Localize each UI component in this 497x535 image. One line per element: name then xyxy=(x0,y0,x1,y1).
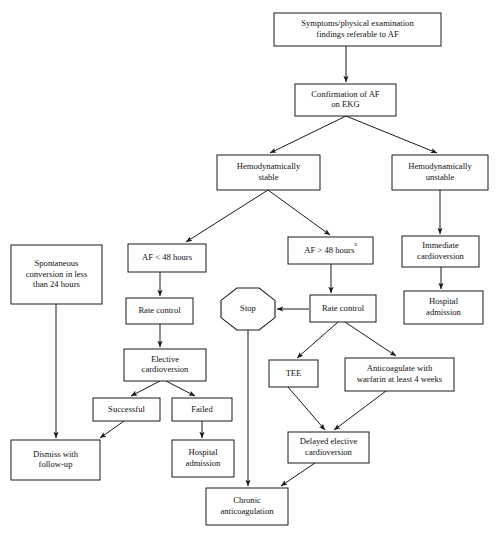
flow-node-hospital-adm-m[interactable]: Hospitaladmission xyxy=(172,440,234,477)
flow-edge-successful-to-dismiss xyxy=(100,421,124,438)
flow-edge-hemo-stable-to-af-gt-48 xyxy=(268,190,330,235)
flow-node-label-immediate-cv: Immediatecardioversion xyxy=(417,240,464,260)
flow-node-successful[interactable]: Successful xyxy=(93,398,160,421)
flow-edge-confirmation-to-hemo-stable xyxy=(270,116,346,153)
flow-edge-rate-control-r-to-anticoag-warf xyxy=(345,322,396,356)
flow-node-tee[interactable]: TEE xyxy=(269,360,318,387)
flow-node-label-stop: Stop xyxy=(240,303,256,313)
flow-node-hemo-stable[interactable]: Hemodynamicallystable xyxy=(217,155,320,190)
flow-node-rate-control-r[interactable]: Rate control xyxy=(310,295,376,322)
flow-node-label-delayed-cv: Delayed electivecardioversion xyxy=(300,436,358,456)
flow-edge-elective-cv-to-successful xyxy=(131,381,160,396)
flow-node-failed[interactable]: Failed xyxy=(172,398,232,421)
flow-node-af-lt-48[interactable]: AF < 48 hours xyxy=(128,244,206,272)
flow-node-label-af-lt-48: AF < 48 hours xyxy=(142,252,193,262)
flow-edge-tee-to-delayed-cv xyxy=(288,387,325,430)
flow-node-chronic-anticoag[interactable]: Chronicanticoagulation xyxy=(206,488,288,525)
flow-edge-delayed-cv-to-chronic-anticoag xyxy=(281,463,315,486)
flow-node-anticoag-warf[interactable]: Anticoagulate withwarfarin at least 4 we… xyxy=(345,358,454,391)
flow-node-symptoms[interactable]: Symptoms/physical examinationfindings re… xyxy=(274,13,441,46)
flow-edge-anticoag-warf-to-delayed-cv xyxy=(334,391,386,430)
flow-node-label-rate-control-r: Rate control xyxy=(322,302,365,312)
flow-node-stop[interactable]: Stop xyxy=(221,288,275,330)
flow-edge-elective-cv-to-failed xyxy=(166,381,195,396)
flow-node-af-gt-48[interactable]: AF > 48 hoursa xyxy=(288,237,373,264)
flow-node-immediate-cv[interactable]: Immediatecardioversion xyxy=(402,236,479,267)
flow-node-label-dismiss: Dismiss withfollow-up xyxy=(33,449,79,469)
flow-node-label-failed: Failed xyxy=(191,403,213,413)
flow-node-label-symptoms: Symptoms/physical examinationfindings re… xyxy=(301,18,414,38)
flow-node-label-anticoag-warf: Anticoagulate withwarfarin at least 4 we… xyxy=(357,363,443,383)
flowchart-svg: Symptoms/physical examinationfindings re… xyxy=(0,0,497,535)
flow-node-hemo-unstable[interactable]: Hemodynamicallyunstable xyxy=(392,155,488,190)
flow-node-confirmation[interactable]: Confirmation of AFon EKG xyxy=(295,84,396,116)
flow-edge-hemo-stable-to-af-lt-48 xyxy=(186,190,268,242)
flowchart-container: Symptoms/physical examinationfindings re… xyxy=(0,0,497,535)
flow-node-elective-cv[interactable]: Electivecardioversion xyxy=(124,349,206,381)
flow-node-rate-control-l[interactable]: Rate control xyxy=(126,298,193,324)
flow-node-label-tee: TEE xyxy=(286,367,302,377)
flow-node-spontaneous[interactable]: Spontaneousconversion in lessthan 24 hou… xyxy=(11,245,102,304)
flow-node-label-rate-control-l: Rate control xyxy=(138,305,181,315)
flow-node-dismiss[interactable]: Dismiss withfollow-up xyxy=(11,440,100,480)
flow-node-label-hospital-adm-m: Hospitaladmission xyxy=(186,447,222,467)
flow-edge-rate-control-r-to-tee xyxy=(297,322,338,358)
flowchart-nodes: Symptoms/physical examinationfindings re… xyxy=(11,13,488,525)
flow-node-label-successful: Successful xyxy=(108,403,145,413)
flow-edge-confirmation-to-hemo-unstable xyxy=(346,116,437,153)
flow-node-hospital-adm-r[interactable]: Hospitaladmission xyxy=(404,291,483,324)
flow-node-delayed-cv[interactable]: Delayed electivecardioversion xyxy=(288,432,369,463)
flow-node-label-hospital-adm-r: Hospitaladmission xyxy=(426,296,462,316)
